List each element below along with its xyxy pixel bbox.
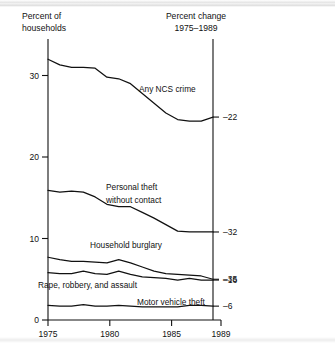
series-label-household-burglary: Household burglary [90,240,163,250]
right-axis-title-line2: 1975–1989 [174,23,217,33]
right-axis-title-line1: Percent change [166,11,226,21]
left-axis-title-line2: households [22,23,66,33]
x-tick-label-1975: 1975 [39,329,58,339]
percent-change-label-motor-vehicle-theft: –6 [223,301,233,311]
percent-change-label-rape-robbery-and-assault: –16 [223,275,237,285]
y-tick-label-30: 30 [30,71,40,81]
x-tick-label-1989: 1989 [212,329,231,339]
series-label-any-ncs-crime: Any NCS crime [139,84,196,94]
right-axis-change-ticks: –22–32–35–16–6 [213,112,237,311]
x-tick-label-1985: 1985 [162,329,181,339]
percent-change-label-any-ncs-crime: –22 [223,112,237,122]
chart-svg: Percent of households Percent change 197… [0,0,335,343]
y-tick-label-0: 0 [34,315,39,325]
y-tick-label-20: 20 [30,152,40,162]
series-label-personal-theft-line1: Personal theft [106,182,158,192]
y-tick-label-10: 10 [30,234,40,244]
series-label-motor-vehicle-theft: Motor vehicle theft [137,297,205,307]
data-line-household-burglary [48,257,213,279]
x-axis-ticks [48,320,221,326]
x-axis-tick-labels: 1975 1980 1985 1989 [39,329,231,339]
x-tick-label-1980: 1980 [100,329,119,339]
percent-change-label-personal-theft-without-contact: –32 [223,227,237,237]
series-label-personal-theft-line2: without contact [105,195,162,205]
series-label-rape-robbery-assault: Rape, robbery, and assault [38,280,138,290]
figure-chart-victimization-rates: Percent of households Percent change 197… [0,0,335,343]
left-axis-title-line1: Percent of [22,11,62,21]
